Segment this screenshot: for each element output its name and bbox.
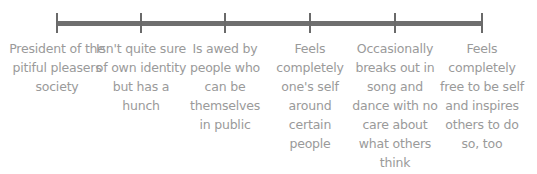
tick-mark-6	[481, 13, 483, 33]
tick-mark-4	[309, 13, 311, 33]
spectrum-timeline: President of the pitiful pleasers societ…	[0, 0, 537, 174]
tick-mark-5	[394, 13, 396, 33]
timeline-label-4: Feels completely one's self around certa…	[270, 39, 350, 153]
tick-mark-2	[140, 13, 142, 33]
timeline-label-5: Occasionally breaks out in song and danc…	[349, 39, 441, 172]
timeline-axis-line	[57, 21, 482, 26]
timeline-label-6: Feels completely free to be self and ins…	[440, 39, 524, 153]
timeline-label-2: Isn't quite sure of own identity but has…	[95, 39, 187, 115]
tick-mark-3	[224, 13, 226, 33]
timeline-label-1: President of the pitiful pleasers societ…	[9, 39, 105, 96]
tick-mark-1	[56, 13, 58, 33]
timeline-label-3: Is awed by people who can be themselves …	[183, 39, 267, 134]
